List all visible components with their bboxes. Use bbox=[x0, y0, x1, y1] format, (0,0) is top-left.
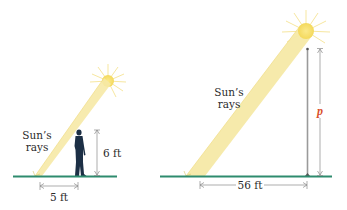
person-height-label: 6 ft bbox=[103, 147, 122, 159]
sun-rays-label-left: Sun’s bbox=[22, 129, 51, 141]
shadow-dimension-5ft bbox=[40, 182, 78, 190]
right-panel: Sun’s rays p 56 ft bbox=[160, 10, 332, 191]
pole bbox=[305, 48, 310, 176]
person-icon bbox=[75, 130, 87, 177]
shadow-length-label-left: 5 ft bbox=[50, 191, 69, 203]
pole-height-variable: p bbox=[316, 104, 323, 118]
similar-triangles-diagram: Sun’s rays 6 ft 5 ft bbox=[0, 0, 347, 210]
sun-rays-label-left-line2: rays bbox=[26, 141, 49, 153]
sun-ray-beam-right bbox=[186, 26, 312, 176]
sun-disc-right bbox=[298, 23, 314, 39]
height-dimension-6ft bbox=[94, 130, 100, 176]
sun-rays-label-right: Sun’s bbox=[214, 86, 243, 98]
sun-ray-beam-left bbox=[35, 78, 111, 176]
shadow-length-label-right: 56 ft bbox=[238, 179, 264, 191]
sun-rays-label-right-line2: rays bbox=[218, 98, 241, 110]
left-panel: Sun’s rays 6 ft 5 ft bbox=[13, 64, 126, 203]
